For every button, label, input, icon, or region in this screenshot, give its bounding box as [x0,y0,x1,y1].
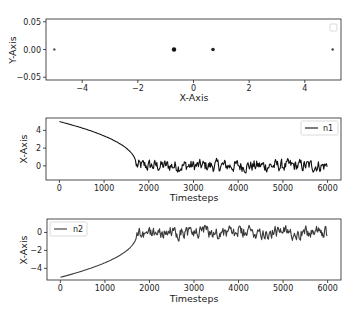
legend: n1 [301,121,338,135]
y-tick-label: −4 [30,264,42,273]
x-axis-label: X-Axis [180,92,209,103]
scatter-panel: −4−2024 0.050.00−0.05 X-Axis Y-Axis [7,18,341,103]
y-tick-label: 0 [37,228,42,237]
x-tick-label: 0 [58,284,63,293]
x-tick-label: 4000 [228,184,248,193]
plot-area [47,219,341,280]
x-tick-label: 2000 [139,284,159,293]
y-ticks: 0.050.00−0.05 [16,18,46,82]
x-tick-label: −4 [76,84,88,93]
plot-area [46,19,341,80]
x-tick-label: 3000 [184,284,204,293]
y-tick-label: 0.05 [23,18,41,27]
x-tick-label: −2 [132,84,144,93]
figure: −4−2024 0.050.00−0.05 X-Axis Y-Axis 0100… [0,0,355,317]
scatter-point [211,48,215,52]
legend-label-n2: n2 [73,225,83,234]
y-axis-label: Y-Axis [7,36,18,65]
n1-line-panel: 0100020003000400050006000 420 n1 Timeste… [18,118,341,203]
y-ticks: 420 [36,126,46,170]
y-tick-label: −2 [30,246,42,255]
x-tick-label: 4 [302,84,307,93]
x-tick-label: 1000 [95,284,115,293]
x-tick-label: 4000 [228,284,248,293]
x-tick-label: 5000 [273,284,293,293]
y-tick-label: 0.00 [23,46,41,55]
y-tick-label: −0.05 [16,73,41,82]
x-ticks: 0100020003000400050006000 [58,280,338,293]
y-axis-label: X-Axis [18,235,29,264]
y-axis-label: X-Axis [18,134,29,163]
empty-legend-box [330,24,337,31]
x-tick-label: 6000 [317,184,337,193]
y-tick-label: 0 [36,162,41,171]
legend-label-n1: n1 [323,124,333,133]
scatter-point [53,48,55,50]
scatter-point [172,47,176,51]
legend: n2 [50,222,87,236]
y-tick-label: 4 [36,126,41,135]
x-axis-label: Timesteps [169,192,219,203]
n2-line-panel: 0100020003000400050006000 0−2−4 n2 Times… [18,219,341,304]
x-tick-label: 2000 [139,184,159,193]
x-tick-label: 1000 [94,184,114,193]
plot-area [46,118,341,180]
x-tick-label: 5000 [273,184,293,193]
x-tick-label: 0 [57,184,62,193]
x-tick-label: 2 [247,84,252,93]
x-axis-label: Timesteps [169,293,219,304]
y-tick-label: 2 [36,144,41,153]
y-ticks: 0−2−4 [30,228,47,273]
x-tick-label: 6000 [317,284,337,293]
scatter-point [331,48,333,50]
